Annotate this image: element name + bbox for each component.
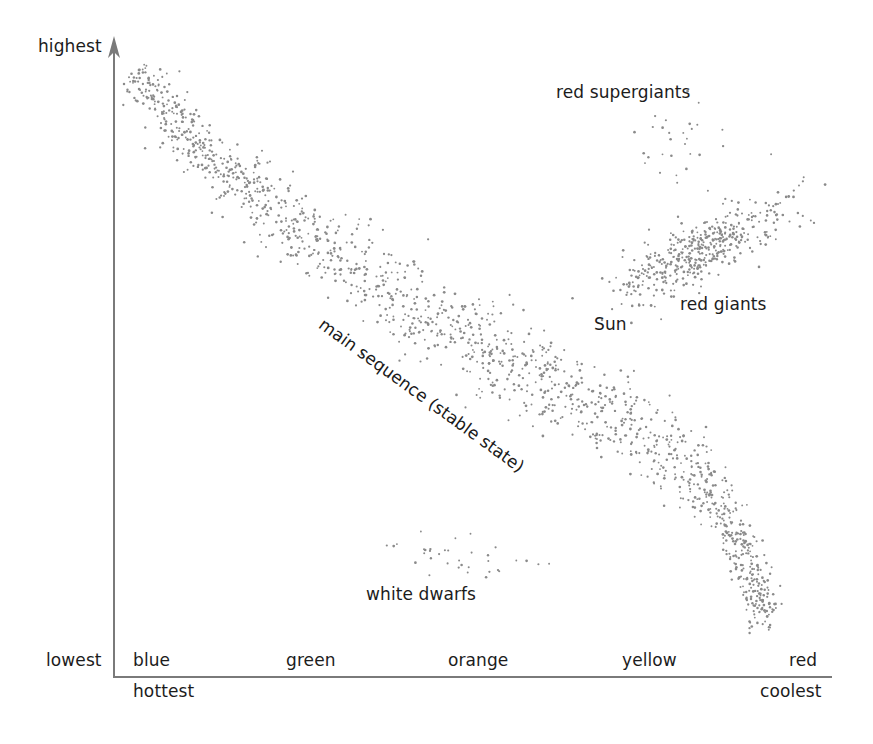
x-tick-blue: blue — [133, 652, 170, 669]
label-sun: Sun — [594, 316, 627, 333]
scatter-plot — [0, 0, 873, 744]
y-axis-top-label: highest — [38, 38, 102, 55]
y-axis-bottom-label: lowest — [46, 652, 102, 669]
x-axis-right-label: coolest — [760, 683, 822, 700]
x-tick-red: red — [789, 652, 817, 669]
label-white-dwarfs: white dwarfs — [366, 586, 476, 603]
label-red-giants: red giants — [680, 296, 767, 313]
label-red-supergiants: red supergiants — [556, 84, 691, 101]
x-tick-orange: orange — [448, 652, 508, 669]
star-points — [122, 64, 826, 634]
hr-diagram: highest lowest absolute magnitude (true … — [0, 0, 873, 744]
x-axis-left-label: hottest — [133, 683, 194, 700]
x-tick-green: green — [286, 652, 336, 669]
x-tick-yellow: yellow — [622, 652, 677, 669]
